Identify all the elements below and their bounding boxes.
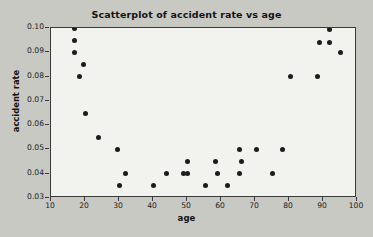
- scatter-point: [185, 159, 190, 164]
- x-tick-mark: [118, 197, 119, 201]
- scatter-point: [288, 74, 293, 79]
- x-tick-mark: [84, 197, 85, 201]
- scatterplot-figure: Scatterplot of accident rate vs age acci…: [0, 0, 373, 237]
- scatter-point: [185, 171, 190, 176]
- scatter-point: [254, 147, 259, 152]
- x-tick-mark: [152, 197, 153, 201]
- scatter-point: [270, 171, 275, 176]
- x-tick-mark: [50, 197, 51, 201]
- scatter-point: [77, 74, 82, 79]
- x-tick-mark: [356, 197, 357, 201]
- scatter-point: [115, 147, 120, 152]
- x-tick-mark: [186, 197, 187, 201]
- scatter-point: [280, 147, 285, 152]
- x-tick-label: 90: [310, 201, 334, 210]
- scatter-point: [327, 28, 332, 32]
- x-tick-label: 50: [174, 201, 198, 210]
- scatter-point: [72, 50, 77, 55]
- scatter-point: [164, 171, 169, 176]
- x-tick-mark: [254, 197, 255, 201]
- plot-area: [50, 27, 356, 197]
- scatter-point: [151, 183, 156, 188]
- x-tick-label: 10: [38, 201, 62, 210]
- scatter-point: [72, 38, 77, 43]
- scatter-point: [317, 40, 322, 45]
- x-tick-mark: [220, 197, 221, 201]
- scatter-point: [327, 40, 332, 45]
- scatter-point: [315, 74, 320, 79]
- scatter-point: [72, 28, 77, 31]
- scatter-point: [225, 183, 230, 188]
- x-tick-label: 70: [242, 201, 266, 210]
- scatter-point: [117, 183, 122, 188]
- scatter-point: [81, 62, 86, 67]
- scatter-point: [338, 50, 343, 55]
- x-tick-label: 80: [276, 201, 300, 210]
- x-tick-label: 100: [344, 201, 368, 210]
- scatter-point: [213, 159, 218, 164]
- x-tick-label: 60: [208, 201, 232, 210]
- scatter-point: [123, 171, 128, 176]
- scatter-point: [203, 183, 208, 188]
- x-tick-mark: [322, 197, 323, 201]
- scatter-point: [237, 147, 242, 152]
- scatter-point: [239, 159, 244, 164]
- x-tick-label: 20: [72, 201, 96, 210]
- scatter-points-layer: [51, 28, 355, 196]
- scatter-point: [237, 171, 242, 176]
- scatter-point: [83, 111, 88, 116]
- x-tick-label: 40: [140, 201, 164, 210]
- x-tick-mark: [288, 197, 289, 201]
- scatter-point: [215, 171, 220, 176]
- scatter-point: [96, 135, 101, 140]
- x-tick-label: 30: [106, 201, 130, 210]
